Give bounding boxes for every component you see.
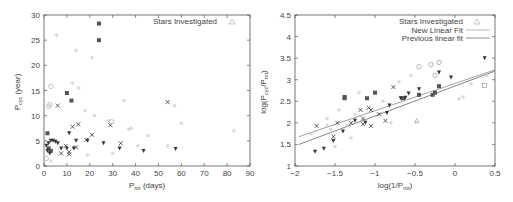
right-data-points: [309, 56, 489, 154]
right-legend: Stars Investigated New Linear Fit Previo…: [399, 17, 490, 43]
x-tick-label: 70: [200, 169, 209, 178]
data-point: [45, 131, 49, 135]
data-point: [369, 108, 373, 112]
x-tick-label: −1: [370, 169, 380, 178]
data-point: [337, 108, 341, 112]
data-point: [174, 147, 178, 151]
data-point: [349, 136, 353, 140]
data-point: [56, 104, 60, 108]
data-point: [111, 152, 115, 156]
data-point: [325, 117, 329, 121]
data-point: [349, 121, 353, 125]
data-point: [343, 96, 347, 100]
data-point: [86, 153, 90, 157]
right-y-axis-label: log(Pcyc/Prot): [259, 70, 269, 114]
fit-line: [299, 70, 495, 137]
data-point: [59, 151, 63, 155]
x-tick-label: 30: [108, 169, 117, 178]
data-point: [142, 149, 146, 153]
data-point: [65, 146, 69, 150]
y-tick-label: 4: [287, 33, 292, 42]
left-scatter-plot: 051015202530 0102030405060708090 Stars I…: [0, 0, 256, 202]
x-tick-label: 40: [131, 169, 140, 178]
y-tick-label: 3: [287, 76, 292, 85]
data-point: [437, 60, 441, 64]
data-point: [44, 156, 48, 160]
x-tick-label: −1.5: [327, 169, 343, 178]
data-point: [329, 128, 333, 132]
data-point: [74, 139, 78, 143]
data-point: [71, 81, 75, 85]
x-tick-label: 10: [62, 169, 71, 178]
data-point: [437, 84, 441, 88]
y-tick-label: 1.5: [280, 140, 292, 149]
left-legend-marker-icon: [229, 19, 235, 24]
x-tick-label: 0: [42, 169, 47, 178]
data-point: [49, 159, 53, 163]
data-point: [353, 119, 357, 123]
data-point: [146, 134, 150, 138]
data-point: [180, 121, 184, 125]
data-point: [71, 125, 75, 129]
data-point: [48, 151, 52, 155]
data-point: [59, 146, 63, 150]
data-point: [74, 48, 78, 52]
data-point: [85, 139, 89, 143]
y-tick-label: 20: [31, 61, 40, 70]
data-point: [417, 87, 421, 91]
data-point: [232, 129, 236, 133]
data-point: [373, 91, 377, 95]
data-point: [49, 84, 53, 88]
data-point: [109, 120, 113, 124]
data-point: [485, 74, 489, 78]
data-point: [341, 129, 345, 133]
data-point: [357, 91, 361, 95]
x-tick-label: 0.5: [489, 169, 501, 178]
data-point: [457, 97, 461, 101]
left-y-ticks: 051015202530: [31, 11, 250, 171]
y-tick-label: 0: [36, 162, 41, 171]
y-tick-label: 3.5: [280, 54, 292, 63]
right-scatter-plot: 11.522.533.544.5 −2−1.5−1−0.500.5 Stars …: [256, 0, 513, 202]
data-point: [361, 117, 365, 121]
x-tick-label: 60: [177, 169, 186, 178]
data-point: [429, 62, 433, 66]
data-point: [409, 74, 413, 78]
data-point: [69, 99, 73, 103]
data-point: [83, 109, 87, 113]
x-tick-label: −0.5: [407, 169, 423, 178]
data-point: [353, 112, 357, 116]
data-point: [122, 99, 126, 103]
left-y-axis-label: Pcyc (year): [13, 73, 23, 110]
data-point: [76, 122, 80, 126]
data-point: [309, 132, 313, 136]
x-tick-label: 90: [246, 169, 255, 178]
data-point: [431, 93, 435, 97]
right-legend-label-prev-fit: Previous linear fit: [402, 34, 464, 43]
right-legend-marker-icon: [474, 19, 480, 24]
data-point: [129, 126, 133, 130]
data-point: [118, 146, 122, 150]
data-point: [331, 135, 335, 139]
data-point: [90, 133, 94, 137]
y-tick-label: 2: [287, 119, 292, 128]
data-point: [56, 141, 60, 145]
data-point: [102, 141, 106, 145]
data-point: [381, 99, 385, 103]
data-point: [383, 119, 387, 123]
left-x-axis-label: Prot (days): [129, 181, 166, 191]
data-point: [173, 104, 177, 108]
x-tick-label: 20: [85, 169, 94, 178]
right-x-axis-label: log(1/Prot): [378, 181, 413, 191]
data-point: [67, 152, 71, 156]
left-x-ticks: 0102030405060708090: [42, 15, 255, 178]
y-tick-label: 30: [31, 11, 40, 20]
data-point: [407, 92, 411, 96]
data-point: [345, 123, 349, 127]
data-point: [461, 95, 465, 99]
x-tick-label: 50: [154, 169, 163, 178]
data-point: [397, 80, 401, 84]
data-point: [55, 33, 59, 37]
y-tick-label: 2.5: [280, 97, 292, 106]
y-tick-label: 25: [31, 36, 40, 45]
